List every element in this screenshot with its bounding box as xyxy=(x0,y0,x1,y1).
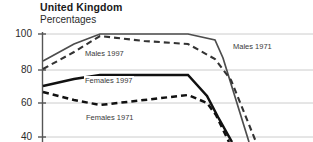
annotation-females-1997: Females 1997 xyxy=(84,76,134,85)
y-tick-40: 40 xyxy=(6,131,32,142)
series-males-1971 xyxy=(43,34,249,142)
chart-figure: United Kingdom Percentages 100 xyxy=(0,0,313,142)
y-tick-100: 100 xyxy=(6,28,32,39)
y-tick-60: 60 xyxy=(6,97,32,108)
series-females-1997 xyxy=(43,75,232,142)
y-tick-80: 80 xyxy=(6,64,32,75)
annotation-females-1971: Females 1971 xyxy=(85,113,135,122)
series-females-1971 xyxy=(43,92,229,142)
y-axis xyxy=(38,32,46,142)
line-chart-plot xyxy=(0,0,313,142)
annotation-males-1997: Males 1997 xyxy=(84,49,125,58)
annotation-males-1971: Males 1971 xyxy=(232,42,273,51)
